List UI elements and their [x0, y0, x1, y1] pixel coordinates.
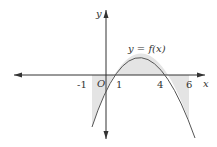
y-axis-label: y: [95, 8, 102, 19]
y-axis-arrow-up: [104, 10, 109, 18]
tick-1: 1: [116, 79, 122, 90]
origin-label: O: [97, 78, 105, 89]
graph: y x O -1 1 4 6 y = f(x): [0, 0, 217, 147]
curve-label: y = f(x): [127, 43, 166, 54]
tick-neg1: -1: [77, 79, 87, 90]
x-axis-arrow-right: [197, 73, 205, 78]
x-axis-arrow-left: [14, 73, 22, 78]
x-axis-label: x: [203, 78, 209, 89]
y-axis-arrow-down: [104, 131, 109, 139]
tick-4: 4: [157, 79, 163, 90]
tick-6: 6: [186, 79, 192, 90]
